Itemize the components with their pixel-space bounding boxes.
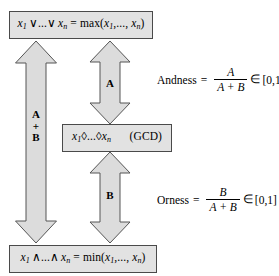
arrow-label-orness-line-0: B [100,190,120,202]
orness-range: [0,1] [255,194,277,206]
min-lhs-operator: ∧...∧ [32,251,59,263]
andness-equals: = [201,74,208,86]
max-args: (x1,..., xn) [100,17,144,29]
andness-label: Andness [157,74,197,86]
orness-formula: Orness = B A + B ∈ [0,1] [157,186,277,213]
arrow-label-andness: A [100,78,120,90]
min-args: (x1,..., xn) [101,251,145,263]
andness-range: [0,1] [262,74,279,86]
min-equals: = [73,251,80,263]
arrow-label-total: A + B [26,109,46,144]
arrow-label-total-line-2: B [26,132,46,144]
gcd-node-content: x1◊...◊xn (GCD) [63,131,171,144]
arrow-label-andness-line-0: A [100,78,120,90]
andness-numerator: A [222,66,239,79]
andness-denominator: A + B [214,80,247,93]
gcd-annotation: (GCD) [130,131,162,144]
gcd-node-expression: x1◊...◊xn [72,131,111,144]
min-node-box: x1∧...∧xn=min(x1,..., xn) [9,245,157,273]
max-node-box: x1∨...∨xn=max(x1,..., xn) [9,11,153,39]
orness-membership-symbol: ∈ [243,192,253,207]
max-lhs-operator: ∨...∨ [29,17,56,29]
gcd-sub2: n [107,136,111,145]
min-lhs-sub2: n [66,257,70,266]
min-node-expression: x1∧...∧xn=min(x1,..., xn) [21,252,146,265]
orness-label: Orness [157,194,189,206]
andness-membership-symbol: ∈ [250,72,260,87]
andness-formula: Andness = A A + B ∈ [0,1] [157,66,279,93]
max-lhs-sub2: n [63,23,67,32]
arrow-label-orness: B [100,190,120,202]
gcd-node-box: x1◊...◊xn (GCD) [62,124,172,152]
max-node-expression: x1∨...∨xn=max(x1,..., xn) [18,18,145,31]
gcd-operator: ◊...◊ [81,130,102,142]
min-lhs-sub1: 1 [26,257,30,266]
max-equals: = [70,17,77,29]
arrow-label-total-line-0: A [26,109,46,121]
orness-denominator: A + B [206,200,239,213]
min-function-name: min [83,251,101,263]
max-lhs-sub1: 1 [23,23,27,32]
diagram-canvas: A + B A B x1∨...∨xn=max(x1,..., xn) x1◊.… [0,0,279,276]
orness-numerator: B [215,186,232,199]
orness-equals: = [193,194,200,206]
max-function-name: max [80,17,100,29]
andness-fraction: A A + B [214,66,247,93]
orness-fraction: B A + B [206,186,239,213]
